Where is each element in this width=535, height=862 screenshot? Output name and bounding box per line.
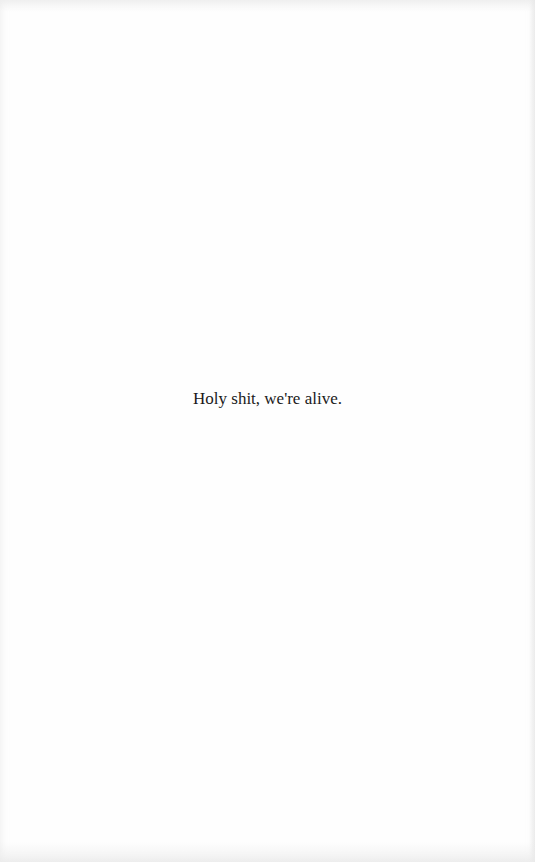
page-edge-top: [0, 0, 535, 12]
page-edge-right: [529, 0, 535, 862]
body-text-line: Holy shit, we're alive.: [0, 389, 535, 409]
book-page: Holy shit, we're alive.: [0, 0, 535, 862]
page-edge-bottom: [0, 842, 535, 862]
